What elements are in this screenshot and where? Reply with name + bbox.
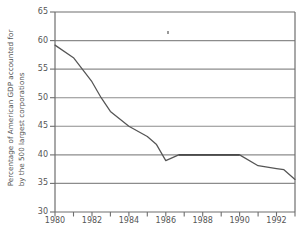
plot-area [0, 0, 307, 241]
x-tick-1988: 1988 [186, 216, 220, 225]
x-tick-1980: 1980 [38, 216, 72, 225]
x-tick-1986: 1986 [149, 216, 183, 225]
x-tick-1990: 1990 [223, 216, 257, 225]
x-tick-1992: 1992 [260, 216, 294, 225]
x-axis-tick-labels: 1980 1982 1984 1986 1988 1990 1992 [0, 216, 307, 230]
data-series-line [55, 45, 295, 179]
x-tick-1984: 1984 [112, 216, 146, 225]
y-axis-ticks [50, 12, 55, 212]
scan-artifact-speck [167, 31, 169, 34]
chart-figure: by the 500 largest corporations Percenta… [0, 0, 307, 241]
plot-frame [55, 12, 295, 212]
x-tick-1982: 1982 [75, 216, 109, 225]
gridlines [55, 41, 295, 184]
